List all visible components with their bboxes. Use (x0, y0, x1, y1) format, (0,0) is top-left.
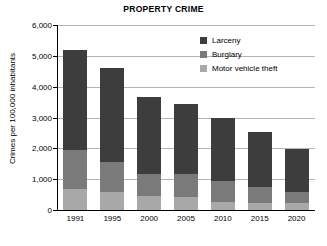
bar-segment (211, 181, 235, 202)
bar-segment (63, 50, 87, 150)
bar-segment (285, 149, 309, 192)
bar-segment (174, 197, 198, 210)
property-crime-chart: PROPERTY CRIME Crimes per 100,000 inhabi… (0, 0, 327, 246)
bar-segment (63, 150, 87, 189)
bar-2005 (174, 25, 198, 210)
bar-segment (211, 118, 235, 181)
chart-legend: LarcenyBurglaryMotor vehicle theft (200, 36, 277, 78)
x-tick-label: 2010 (205, 214, 241, 223)
bar-segment (285, 203, 309, 210)
bar-segment (137, 97, 161, 173)
bar-segment (174, 174, 198, 197)
x-tick-label: 1991 (57, 214, 93, 223)
legend-label: Larceny (212, 36, 240, 45)
bar-1991 (63, 25, 87, 210)
x-axis-line (57, 210, 315, 211)
x-tick-label: 2020 (279, 214, 315, 223)
x-tick-label: 1995 (94, 214, 130, 223)
legend-label: Burglary (212, 50, 242, 59)
legend-item: Burglary (200, 50, 277, 59)
y-tick-label: 5,000 (4, 52, 52, 61)
bar-2020 (285, 25, 309, 210)
legend-item: Larceny (200, 36, 277, 45)
bar-segment (174, 104, 198, 174)
legend-swatch-icon (200, 37, 207, 44)
y-tick-label: 3,000 (4, 114, 52, 123)
legend-swatch-icon (200, 65, 207, 72)
x-tick-label: 2005 (168, 214, 204, 223)
bar-segment (248, 203, 272, 210)
legend-item: Motor vehicle theft (200, 64, 277, 73)
x-tick-label: 2015 (242, 214, 278, 223)
bar-segment (100, 192, 124, 210)
legend-swatch-icon (200, 51, 207, 58)
y-tick-label: 2,000 (4, 144, 52, 153)
bar-2000 (137, 25, 161, 210)
y-tick-label: 4,000 (4, 83, 52, 92)
bar-segment (137, 174, 161, 197)
bar-segment (211, 202, 235, 210)
legend-label: Motor vehicle theft (212, 64, 277, 73)
bar-segment (285, 192, 309, 203)
bar-segment (100, 162, 124, 192)
y-tick-label: 6,000 (4, 21, 52, 30)
y-tick-label: 0 (4, 206, 52, 215)
x-tick-label: 2000 (131, 214, 167, 223)
y-axis-line (57, 25, 58, 211)
bar-segment (63, 189, 87, 210)
bar-segment (248, 132, 272, 187)
y-tick-label: 1,000 (4, 175, 52, 184)
bar-segment (137, 196, 161, 210)
bar-segment (248, 187, 272, 203)
bar-segment (100, 68, 124, 162)
bar-1995 (100, 25, 124, 210)
